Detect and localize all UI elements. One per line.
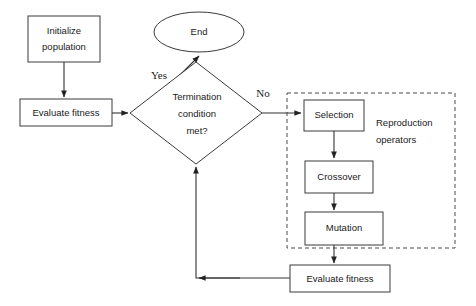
end-label: End <box>191 26 208 37</box>
termination-condition-label-line3: met? <box>186 125 207 136</box>
reproduction-operators-label-line2: operators <box>376 134 416 145</box>
flowchart-canvas: Reproduction operators Initialize popula… <box>0 0 476 306</box>
node-initialize-population[interactable] <box>28 16 100 62</box>
flowchart-svg: Reproduction operators Initialize popula… <box>0 0 476 306</box>
edge-label-no: No <box>256 87 270 99</box>
initialize-population-label-line2: population <box>42 41 86 52</box>
edge-label-yes: Yes <box>151 69 167 81</box>
termination-condition-label-line2: condition <box>178 108 216 119</box>
mutation-label: Mutation <box>326 222 362 233</box>
termination-condition-label-line1: Termination <box>172 91 221 102</box>
initialize-population-label-line1: Initialize <box>47 25 81 36</box>
reproduction-operators-label-line1: Reproduction <box>376 117 433 128</box>
crossover-label: Crossover <box>317 171 360 182</box>
evaluate-fitness-left-label: Evaluate fitness <box>32 107 99 118</box>
edge-evaluate-bottom-to-termination <box>196 167 290 278</box>
evaluate-fitness-bottom-label: Evaluate fitness <box>306 273 373 284</box>
selection-label: Selection <box>314 109 353 120</box>
